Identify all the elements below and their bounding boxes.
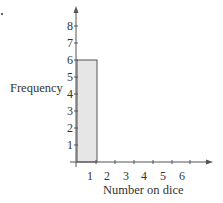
svg-text:6: 6 [179, 169, 185, 183]
svg-text:5: 5 [67, 70, 73, 84]
svg-text:4: 4 [141, 169, 147, 183]
y-axis-arrow-icon [74, 6, 79, 13]
svg-text:3: 3 [123, 169, 129, 183]
frequency-bar-chart: 1 2 3 4 5 6 7 8 1 2 3 4 5 6 Frequency Nu… [0, 0, 223, 203]
x-axis-arrow-icon [206, 160, 213, 165]
x-tick-labels: 1 2 3 4 5 6 [87, 169, 185, 183]
svg-text:6: 6 [67, 53, 73, 67]
svg-text:1: 1 [67, 138, 73, 152]
bar-1 [77, 60, 97, 162]
svg-text:5: 5 [160, 169, 166, 183]
svg-text:2: 2 [104, 169, 110, 183]
svg-text:7: 7 [67, 36, 73, 50]
svg-text:8: 8 [67, 19, 73, 33]
svg-text:3: 3 [67, 104, 73, 118]
svg-text:4: 4 [67, 87, 73, 101]
x-axis-label: Number on dice [103, 183, 184, 197]
y-tick-labels: 1 2 3 4 5 6 7 8 [67, 19, 73, 152]
y-axis-label: Frequency [10, 81, 64, 95]
svg-text:2: 2 [67, 121, 73, 135]
svg-text:1: 1 [87, 169, 93, 183]
